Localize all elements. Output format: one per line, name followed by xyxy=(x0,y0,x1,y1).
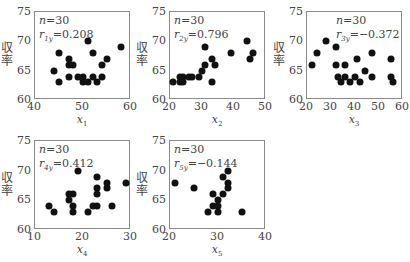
data-point xyxy=(171,179,178,186)
data-point xyxy=(208,79,215,86)
data-point xyxy=(368,50,375,57)
x-axis-label: x5 xyxy=(212,243,223,258)
data-point xyxy=(356,79,363,86)
x-axis-label: x1 xyxy=(77,113,88,128)
x-tick-label: 20 xyxy=(75,230,89,243)
x-tick-label: 60 xyxy=(123,100,137,113)
data-point xyxy=(368,73,375,80)
sample-size-label: n=30 xyxy=(174,143,238,157)
data-point xyxy=(191,185,198,192)
data-point xyxy=(51,67,58,74)
data-point xyxy=(388,55,395,62)
correlation-annotation: n=30r5y=−0.144 xyxy=(174,143,238,175)
data-point xyxy=(84,79,91,86)
data-point xyxy=(227,50,234,57)
x-tick-label: 40 xyxy=(258,230,272,243)
x-tick-label: 30 xyxy=(323,100,337,113)
x-axis-label: x2 xyxy=(212,113,223,128)
correlation-label: r4y=0.412 xyxy=(39,157,93,175)
data-point xyxy=(239,209,246,216)
data-point xyxy=(342,61,349,68)
data-point xyxy=(84,209,91,216)
data-point xyxy=(123,179,130,186)
data-point xyxy=(56,79,63,86)
data-point xyxy=(94,173,101,180)
data-point xyxy=(354,55,361,62)
data-point xyxy=(308,61,315,68)
data-point xyxy=(179,79,186,86)
data-point xyxy=(70,61,77,68)
x-tick-label: 50 xyxy=(371,100,385,113)
sample-size-label: n=30 xyxy=(336,14,400,28)
x-tick-label: 50 xyxy=(258,100,272,113)
data-point xyxy=(51,209,58,216)
x-tick-label: 60 xyxy=(395,100,409,113)
data-point xyxy=(56,50,63,57)
data-point xyxy=(361,67,368,74)
y-axis-label: 収率 xyxy=(136,172,148,198)
sample-size-label: n=30 xyxy=(174,14,228,28)
y-tick-label: 75 xyxy=(281,5,303,18)
correlation-annotation: n=30r2y=0.796 xyxy=(174,14,228,46)
data-point xyxy=(94,79,101,86)
data-point xyxy=(108,203,115,210)
data-point xyxy=(243,38,250,45)
x-tick-label: 40 xyxy=(226,100,240,113)
correlation-label: r5y=−0.144 xyxy=(174,157,238,175)
y-axis-label: 収率 xyxy=(1,172,13,198)
data-point xyxy=(211,61,218,68)
x-tick-label: 10 xyxy=(27,230,41,243)
data-point xyxy=(215,209,222,216)
correlation-label: r2y=0.796 xyxy=(174,28,228,46)
y-tick-label: 75 xyxy=(144,134,166,147)
data-point xyxy=(247,55,254,62)
data-point xyxy=(118,44,125,51)
data-point xyxy=(104,185,111,192)
data-point xyxy=(323,38,330,45)
correlation-annotation: n=30r3y=−0.372 xyxy=(336,14,400,46)
data-point xyxy=(313,50,320,57)
x-tick-label: 30 xyxy=(194,100,208,113)
x-tick-label: 50 xyxy=(75,100,89,113)
y-tick-label: 75 xyxy=(9,5,31,18)
data-point xyxy=(89,50,96,57)
data-point xyxy=(205,209,212,216)
correlation-annotation: n=30r1y=0.208 xyxy=(39,14,93,46)
y-axis-label: 収率 xyxy=(136,42,148,68)
x-tick-label: 40 xyxy=(347,100,361,113)
x-tick-label: 30 xyxy=(210,230,224,243)
sample-size-label: n=30 xyxy=(39,14,93,28)
x-axis-label: x3 xyxy=(349,113,360,128)
data-point xyxy=(195,73,202,80)
y-tick-label: 75 xyxy=(9,134,31,147)
x-axis-label: x4 xyxy=(77,243,88,258)
sample-size-label: n=30 xyxy=(39,143,93,157)
x-tick-label: 40 xyxy=(27,100,41,113)
data-point xyxy=(99,61,106,68)
data-point xyxy=(70,209,77,216)
y-tick-label: 75 xyxy=(144,5,166,18)
data-point xyxy=(390,79,397,86)
data-point xyxy=(94,191,101,198)
x-tick-label: 20 xyxy=(162,230,176,243)
correlation-annotation: n=30r4y=0.412 xyxy=(39,143,93,175)
data-point xyxy=(65,73,72,80)
y-axis-label: 収率 xyxy=(1,42,13,68)
data-point xyxy=(337,79,344,86)
correlation-label: r1y=0.208 xyxy=(39,28,93,46)
data-point xyxy=(347,79,354,86)
data-point xyxy=(94,203,101,210)
x-tick-label: 20 xyxy=(299,100,313,113)
x-tick-label: 20 xyxy=(162,100,176,113)
data-point xyxy=(332,61,339,68)
y-axis-label: 収率 xyxy=(273,42,285,68)
correlation-label: r3y=−0.372 xyxy=(336,28,400,46)
x-tick-label: 30 xyxy=(123,230,137,243)
